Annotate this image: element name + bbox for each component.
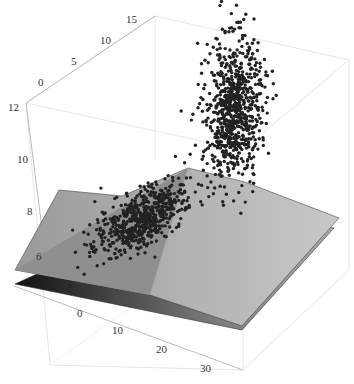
3d-scatter-plot: 12 0 5 10 15 10 8 6 0 10 20 30 <box>0 0 354 384</box>
y-tick-5: 5 <box>71 55 77 67</box>
z-tick-8: 8 <box>27 205 33 217</box>
z-tick-10: 10 <box>17 153 29 165</box>
x-tick-20: 20 <box>156 343 168 355</box>
y-tick-0: 0 <box>38 76 44 88</box>
svg-text:12: 12 <box>8 101 19 113</box>
y-axis <box>26 16 155 103</box>
y-tick-10: 10 <box>100 34 112 46</box>
x-tick-10: 10 <box>112 324 124 336</box>
z-tick-6: 6 <box>36 250 42 262</box>
y-tick-15: 15 <box>126 13 138 25</box>
y-tick-labels: 12 0 5 10 15 <box>8 13 138 113</box>
x-tick-30: 30 <box>200 362 212 374</box>
x-tick-0: 0 <box>77 307 83 319</box>
